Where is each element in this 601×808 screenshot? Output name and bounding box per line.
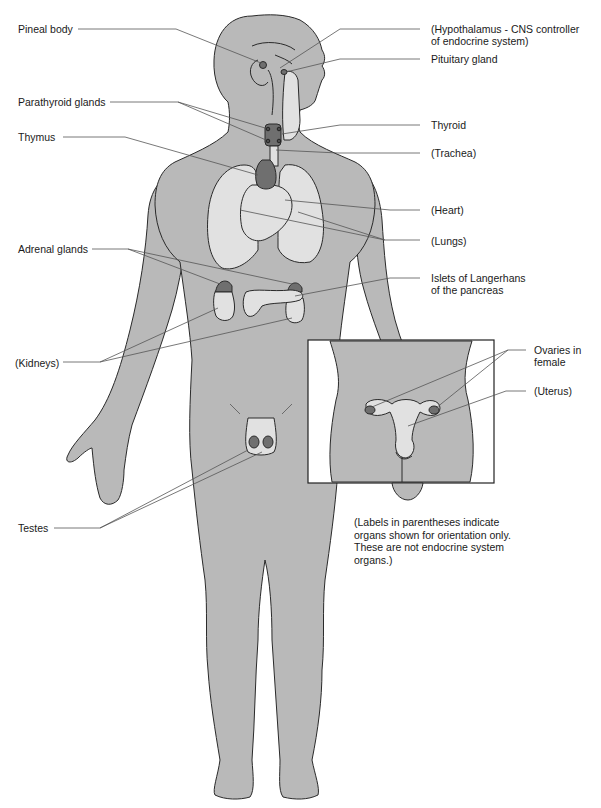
label-islets-line1: Islets of Langerhans (431, 272, 526, 284)
label-pituitary-gland: Pituitary gland (431, 53, 498, 65)
parathyroid-icon (266, 127, 270, 131)
label-ovaries-line1: Ovaries in (534, 344, 581, 356)
label-lungs: (Lungs) (431, 235, 467, 247)
label-heart: (Heart) (431, 204, 464, 216)
female-inset (308, 340, 494, 500)
body-illustration (0, 0, 601, 808)
parentheses-note: (Labels in parentheses indicate organs s… (354, 516, 511, 566)
label-parathyroid-glands: Parathyroid glands (18, 96, 106, 108)
label-trachea: (Trachea) (431, 147, 476, 159)
label-uterus: (Uterus) (534, 385, 572, 397)
label-thymus: Thymus (18, 131, 55, 143)
label-islets-line2: of the pancreas (431, 284, 503, 296)
label-kidneys: (Kidneys) (15, 357, 59, 369)
label-testes: Testes (18, 522, 48, 534)
label-hypothalamus-line2: of endocrine system) (431, 35, 528, 47)
label-pineal-body: Pineal body (18, 23, 73, 35)
testes-right-icon (263, 436, 273, 448)
ovary-left-icon (365, 406, 375, 414)
endocrine-diagram: Pineal body Parathyroid glands Thymus Ad… (0, 0, 601, 808)
label-adrenal-glands: Adrenal glands (18, 243, 88, 255)
label-ovaries-line2: female (534, 356, 566, 368)
testes-left-icon (249, 436, 259, 448)
label-thyroid: Thyroid (431, 119, 466, 131)
thymus-icon (256, 160, 276, 189)
label-hypothalamus-line1: (Hypothalamus - CNS controller (431, 23, 579, 35)
kidney-left-icon (214, 292, 235, 321)
